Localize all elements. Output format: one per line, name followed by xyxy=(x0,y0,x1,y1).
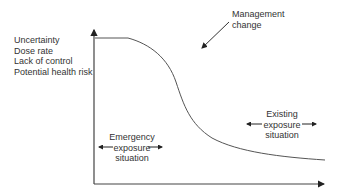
exposure-transition-diagram: Uncertainty Dose rate Lack of control Po… xyxy=(0,0,340,194)
existing-line3: situation xyxy=(256,130,308,141)
factor-lack-of-control: Lack of control xyxy=(14,56,93,67)
y-axis-factors-list: Uncertainty Dose rate Lack of control Po… xyxy=(14,35,93,77)
emergency-line3: situation xyxy=(106,153,158,164)
emergency-line1: Emergency xyxy=(106,132,158,143)
management-change-line2: change xyxy=(232,20,285,31)
existing-exposure-label: Existing exposure situation xyxy=(256,109,308,141)
factor-uncertainty: Uncertainty xyxy=(14,35,93,46)
factor-potential-health-risk: Potential health risk xyxy=(14,67,93,78)
emergency-exposure-label: Emergency exposure situation xyxy=(106,132,158,164)
management-change-label: Management change xyxy=(232,9,285,30)
existing-line1: Existing xyxy=(256,109,308,120)
diagram-graphics xyxy=(0,0,340,194)
management-change-line1: Management xyxy=(232,9,285,20)
factor-dose-rate: Dose rate xyxy=(14,46,93,57)
existing-line2: exposure xyxy=(256,120,308,131)
management-change-arrow xyxy=(202,22,229,48)
emergency-line2: exposure xyxy=(106,143,158,154)
